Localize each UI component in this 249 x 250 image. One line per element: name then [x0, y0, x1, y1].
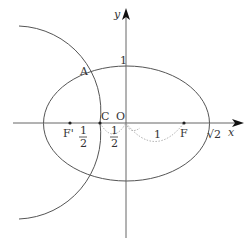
- diagram-canvas: y x O A C F F' 1 √2 1 1 2 1 2: [0, 0, 249, 250]
- point-C-label: C: [101, 110, 109, 123]
- point-F-prime-label: F': [63, 127, 74, 140]
- origin-label: O: [116, 110, 125, 123]
- half-right-denominator: 2: [111, 137, 118, 150]
- point-F-label: F: [180, 127, 188, 140]
- point-A-label: A: [79, 65, 89, 78]
- y-one-tick-label: 1: [120, 54, 127, 67]
- half-left-numerator: 1: [80, 124, 87, 137]
- half-segment-arc-right: [126, 123, 140, 131]
- sqrt2-tick-label: √2: [207, 128, 221, 141]
- half-left-denominator: 2: [80, 137, 87, 150]
- point-F: [182, 121, 185, 124]
- y-axis-label: y: [113, 8, 121, 21]
- point-F-prime: [68, 121, 71, 124]
- half-right-numerator: 1: [111, 124, 118, 137]
- x-axis-label: x: [228, 126, 235, 139]
- unit-segment-label: 1: [154, 128, 161, 141]
